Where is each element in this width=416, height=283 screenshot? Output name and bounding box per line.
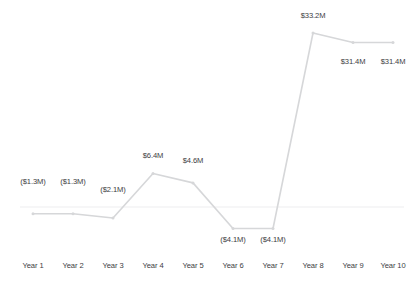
- x-axis-label: Year 6: [222, 262, 243, 270]
- data-point-marker: [352, 41, 355, 44]
- line-chart: ($1.3M)($1.3M)($2.1M)$6.4M$4.6M($4.1M)($…: [0, 0, 416, 283]
- data-point-label: ($2.1M): [100, 186, 125, 194]
- plot-area: [0, 0, 416, 283]
- data-point-marker: [272, 227, 275, 230]
- x-axis-label: Year 2: [62, 262, 83, 270]
- data-point-label: $31.4M: [381, 58, 406, 66]
- data-point-marker: [312, 32, 315, 35]
- data-point-label: $33.2M: [301, 12, 326, 20]
- data-point-label: ($1.3M): [60, 178, 85, 186]
- series-line: [33, 33, 393, 229]
- x-axis-label: Year 5: [182, 262, 203, 270]
- data-point-marker: [152, 172, 155, 175]
- x-axis-label: Year 1: [22, 262, 43, 270]
- x-axis-label: Year 7: [262, 262, 283, 270]
- data-point-label: $6.4M: [143, 152, 164, 160]
- data-point-label: ($1.3M): [20, 178, 45, 186]
- data-point-marker: [72, 212, 75, 215]
- x-axis-label: Year 9: [342, 262, 363, 270]
- x-axis-label: Year 8: [302, 262, 323, 270]
- data-point-marker: [32, 212, 35, 215]
- x-axis-label: Year 3: [102, 262, 123, 270]
- data-point-marker: [192, 181, 195, 184]
- data-point-label: ($4.1M): [260, 236, 285, 244]
- data-point-marker: [232, 227, 235, 230]
- data-point-marker: [392, 41, 395, 44]
- data-point-label: $31.4M: [341, 58, 366, 66]
- x-axis-label: Year 4: [142, 262, 163, 270]
- chart-svg: [0, 0, 416, 283]
- x-axis-label: Year 10: [380, 262, 405, 270]
- data-point-label: ($4.1M): [220, 236, 245, 244]
- data-point-label: $4.6M: [183, 157, 204, 165]
- data-point-marker: [112, 217, 115, 220]
